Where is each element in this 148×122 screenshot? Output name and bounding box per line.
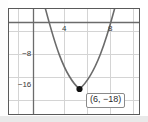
y-tick-label-neg8: −8	[9, 50, 31, 58]
x-tick-label-4: 4	[62, 25, 66, 33]
vertex-coordinate-label: (6, −18)	[86, 93, 125, 108]
vertex-point	[76, 86, 82, 92]
graph-figure: 4 8 −8 −16 (6, −18)	[0, 0, 148, 122]
y-tick-label-neg16: −16	[8, 81, 31, 89]
x-tick-label-8: 8	[108, 25, 112, 33]
bottom-margin	[0, 116, 148, 122]
left-margin	[0, 0, 8, 122]
